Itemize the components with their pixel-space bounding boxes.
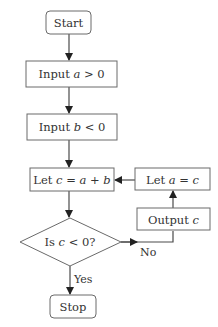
let-a-label: Let a = c [146,173,200,187]
start-node: Start [46,11,91,34]
edge-decision-to-output-c [121,231,173,242]
flowchart: Start Input a > 0 Input b < 0 Let c = a … [0,0,218,327]
yes-label: Yes [73,273,93,286]
input-a-label: Input a > 0 [38,67,104,81]
input-a-node: Input a > 0 [26,61,117,87]
start-label: Start [54,16,84,30]
input-b-label: Input b < 0 [39,120,106,134]
output-c-node: Output c [137,208,210,230]
stop-label: Stop [60,300,87,314]
input-b-node: Input b < 0 [27,114,117,140]
let-c-label: Let c = a + b [33,173,110,187]
decision-node: Is c < 0? [20,218,121,266]
output-c-label: Output c [148,213,200,227]
stop-node: Stop [50,295,96,318]
let-a-node: Let a = c [135,168,210,190]
let-c-node: Let c = a + b [30,168,114,191]
no-label: No [140,246,157,259]
decision-label: Is c < 0? [45,235,96,249]
